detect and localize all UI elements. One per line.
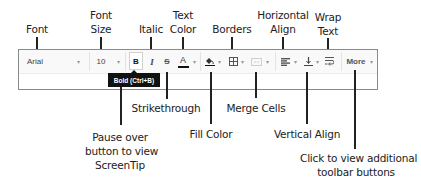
fill-color-button[interactable]	[204, 50, 216, 73]
callout-fill-color: Fill Color	[186, 127, 236, 141]
callout-more-line2: toolbar buttons	[300, 165, 412, 179]
callout-line-fill-color	[210, 72, 212, 124]
wrap-text-icon	[325, 57, 334, 66]
callout-merge-cells: Merge Cells	[226, 101, 286, 115]
chevron-down-icon[interactable]: ▾	[218, 50, 221, 73]
callout-font-size-line1: Font	[88, 8, 114, 22]
text-color-icon: A	[180, 56, 186, 65]
horizontal-align-button[interactable]	[279, 50, 291, 73]
borders-grid-icon	[229, 57, 238, 66]
callout-line-strikethrough	[166, 72, 168, 99]
callout-horizontal-align-line1: Horizontal	[256, 8, 310, 22]
borders-button[interactable]	[227, 50, 239, 73]
bold-button[interactable]: B	[129, 52, 143, 70]
chevron-down-icon[interactable]: ▾	[193, 50, 196, 73]
font-select[interactable]: Arial	[27, 50, 49, 73]
callout-screentip-line2: button to view	[85, 144, 155, 158]
separator	[89, 52, 90, 71]
callout-line-more	[354, 70, 356, 149]
text-color-bar	[178, 66, 189, 68]
chevron-down-icon[interactable]: ▾	[241, 50, 244, 73]
more-label: More	[346, 57, 365, 66]
align-left-icon	[281, 58, 290, 66]
callout-wrap-text-line2: Text	[314, 24, 342, 38]
separator	[200, 52, 201, 71]
wrap-text-button[interactable]	[323, 50, 335, 73]
callout-wrap-text-line1: Wrap	[314, 10, 342, 24]
callout-screentip-line3: ScreenTip	[85, 158, 155, 172]
strikethrough-icon: S	[164, 57, 169, 66]
screentip-tooltip: Bold (Ctrl+B)	[108, 73, 160, 87]
toolbar-button-row: Arial ▾ 10 ▾ B I S A ▾	[19, 50, 377, 74]
font-value: Arial	[27, 57, 43, 66]
callout-line-screentip	[120, 87, 122, 125]
chevron-down-icon[interactable]: ▾	[370, 50, 373, 73]
chevron-down-icon[interactable]: ▾	[266, 50, 269, 73]
callout-italic: Italic	[137, 22, 165, 36]
chevron-down-icon[interactable]: ▾	[316, 50, 319, 73]
italic-button[interactable]: I	[146, 50, 158, 73]
chevron-down-icon[interactable]: ▾	[294, 50, 297, 73]
callout-text-color-line1: Text	[168, 8, 198, 22]
merge-cells-button[interactable]	[249, 50, 263, 73]
font-size-select[interactable]: 10	[96, 50, 106, 73]
callout-font: Font	[24, 22, 50, 36]
merge-cells-icon	[251, 58, 262, 66]
formatting-toolbar: Arial ▾ 10 ▾ B I S A ▾	[18, 49, 378, 90]
callout-strikethrough: Strikethrough	[130, 101, 202, 115]
align-bottom-icon	[304, 57, 313, 66]
separator	[125, 52, 126, 71]
more-button[interactable]: More	[346, 50, 366, 73]
callout-line-vertical-align	[306, 72, 308, 124]
paint-bucket-icon	[205, 57, 215, 66]
callout-line-merge-cells	[255, 72, 257, 98]
italic-icon: I	[150, 57, 154, 67]
bold-icon: B	[133, 57, 139, 66]
text-color-button[interactable]: A	[176, 50, 190, 73]
font-size-value: 10	[97, 57, 106, 66]
strikethrough-button[interactable]: S	[161, 50, 173, 73]
callout-font-size-line2: Size	[88, 22, 114, 36]
callout-horizontal-align-line2: Align	[256, 22, 310, 36]
separator	[341, 52, 342, 71]
chevron-down-icon[interactable]: ▾	[117, 50, 120, 73]
callout-screentip-line1: Pause over	[85, 130, 155, 144]
callout-text-color-line2: Color	[168, 22, 198, 36]
vertical-align-button[interactable]	[302, 50, 314, 73]
callout-vertical-align: Vertical Align	[272, 127, 342, 141]
callout-borders: Borders	[211, 22, 253, 36]
chevron-down-icon[interactable]: ▾	[77, 50, 80, 73]
separator	[275, 52, 276, 71]
callout-more-line1: Click to view additional	[300, 151, 412, 165]
